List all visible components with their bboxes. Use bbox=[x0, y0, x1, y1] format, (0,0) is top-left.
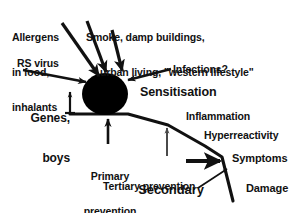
label-genes-boys: Genes, boys bbox=[26, 85, 70, 193]
label-genes-line1: Genes, bbox=[26, 112, 70, 125]
label-infections: Infections? bbox=[173, 64, 228, 76]
pathogenesis-diagram: Allergens in food, inhalants Smoke, damp… bbox=[0, 0, 296, 213]
label-allergens-line1: Allergens bbox=[12, 32, 59, 44]
label-sensitisation: Sensitisation bbox=[140, 85, 217, 99]
label-inflammation: Inflammation bbox=[186, 111, 250, 123]
label-smoke-line1: Smoke, damp buildings, bbox=[86, 32, 254, 44]
label-genes-line2: boys bbox=[26, 152, 70, 165]
label-tertiary-prevention: Tertiary prevention bbox=[103, 181, 195, 193]
label-hyperreactivity: Hyperreactivity bbox=[204, 130, 278, 142]
label-symptoms: Symptoms bbox=[232, 152, 287, 164]
label-damage: Damage bbox=[246, 182, 288, 194]
label-smoke-line2: urban living, "western lifestyle" bbox=[86, 67, 254, 79]
label-rs-virus: RS virus bbox=[17, 58, 59, 70]
